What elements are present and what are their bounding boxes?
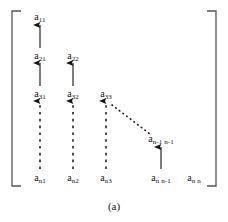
- dotted-diagonal-a33-to-an1n1: [112, 105, 150, 134]
- right-bracket: [207, 11, 216, 186]
- matrix-entry-an3: an3: [100, 173, 112, 185]
- matrix-entry-an1: an1: [34, 173, 46, 185]
- matrix-entry-a11: a11: [34, 12, 45, 24]
- matrix-entry-a33: a33: [100, 89, 112, 101]
- matrix-entry-an2: an2: [67, 173, 79, 185]
- matrix-entry-ann-1: an n-1: [151, 173, 171, 185]
- dashed-arrows-group: [40, 101, 106, 169]
- matrix-entry-a22: a22: [67, 51, 79, 63]
- matrix-entry-a21: a21: [34, 51, 46, 63]
- left-bracket: [12, 11, 21, 186]
- matrix-entry-a32: a32: [67, 89, 79, 101]
- matrix-entry-ann: an n: [187, 173, 201, 185]
- matrix-entry-a31: a31: [34, 89, 46, 101]
- figure-caption: (a): [108, 200, 120, 212]
- figure-graphics-layer: [0, 0, 228, 222]
- matrix-entry-an-1n-1: an-1 n-1: [148, 134, 174, 146]
- matrix-figure: a11 a21 a22 a31 a32 a33 an-1 n-1 an1 an2…: [0, 0, 228, 222]
